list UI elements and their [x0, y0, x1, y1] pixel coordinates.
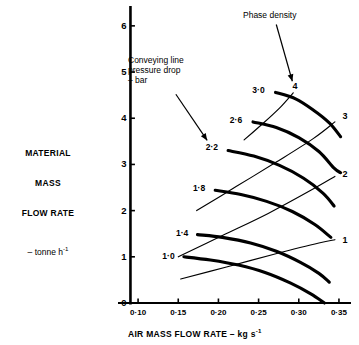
x-tick-label: 0·25 — [243, 308, 275, 317]
x-tick-label: 0·10 — [122, 308, 154, 317]
x-tick-label: 0·15 — [162, 308, 194, 317]
y-axis-unit-exponent: -1 — [63, 245, 68, 252]
x-axis-title-text: AIR MASS FLOW RATE – kg s — [128, 329, 256, 339]
curve-label-pressure-drop-2.6: 2·6 — [220, 115, 242, 125]
y-tick-label: 4 — [114, 112, 126, 123]
annotation-phase-density: Phase density — [243, 10, 323, 20]
annotation-arrow-head-conveying-line-pressure-drop — [201, 133, 207, 140]
x-tick-label: 0·30 — [283, 308, 315, 317]
y-tick-label: 2 — [114, 205, 126, 216]
annotation-arrow-line-conveying-line-pressure-drop — [176, 94, 207, 140]
y-tick-label: 3 — [114, 158, 126, 169]
y-tick-label: 1 — [114, 251, 126, 262]
y-axis-unit-text: – tonne h — [28, 247, 63, 257]
annotation-arrow-line-phase-density — [276, 24, 292, 81]
x-tick-label: 0·35 — [323, 308, 355, 317]
y-axis-title-line1: MATERIAL — [6, 148, 90, 158]
curve-label-phase-density-3: 3 — [343, 111, 348, 122]
curve-label-pressure-drop-1.8: 1·8 — [183, 183, 205, 193]
annotation-line: Phase density — [243, 10, 323, 20]
curve-pressure-drop-2.6 — [253, 122, 341, 173]
curve-pressure-drop-1.4 — [198, 235, 330, 283]
y-axis-title: MATERIAL MASS FLOW RATE – tonne h-1 — [6, 128, 90, 277]
curve-label-phase-density-1: 1 — [343, 235, 348, 246]
annotation-conveying-line-pressure-drop: Conveying linepressure drop– bar — [128, 55, 223, 85]
y-axis-title-line3: FLOW RATE — [6, 208, 90, 218]
y-tick-label: 6 — [114, 20, 126, 31]
curve-label-phase-density-2: 2 — [343, 169, 348, 180]
curve-label-phase-density-4: 4 — [293, 81, 298, 92]
x-tick-label: 0·20 — [202, 308, 234, 317]
y-axis-title-line2: MASS — [6, 178, 90, 188]
y-tick-label: 5 — [114, 66, 126, 77]
x-axis-title-exponent: -1 — [256, 327, 262, 334]
curve-label-pressure-drop-2.2: 2·2 — [196, 142, 218, 152]
curve-label-pressure-drop-3.0: 3·0 — [243, 85, 265, 95]
conveying-performance-chart: MATERIAL MASS FLOW RATE – tonne h-1 AIR … — [0, 0, 359, 345]
curve-phase-density-3 — [197, 122, 335, 211]
curve-label-pressure-drop-1.4: 1·4 — [166, 228, 188, 238]
curve-label-pressure-drop-1.0: 1·0 — [153, 251, 175, 261]
y-tick-label: 0 — [114, 297, 126, 308]
annotation-line: pressure drop — [128, 65, 223, 75]
annotation-line: – bar — [128, 75, 223, 85]
y-axis-unit: – tonne h-1 — [6, 245, 90, 257]
x-axis-title: AIR MASS FLOW RATE – kg s-1 — [128, 327, 262, 339]
annotation-line: Conveying line — [128, 55, 223, 65]
